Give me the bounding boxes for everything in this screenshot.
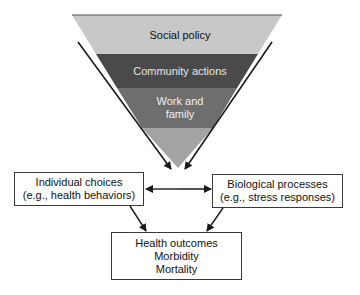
health-determinants-diagram: Social policy Community actions Work and… bbox=[0, 0, 360, 295]
individual-choices-box: Individual choices (e.g., health behavio… bbox=[14, 172, 144, 206]
individual-choices-example: (e.g., health behaviors) bbox=[23, 189, 136, 202]
health-outcomes-title: Health outcomes bbox=[135, 237, 218, 250]
health-outcomes-box: Health outcomes Morbidity Mortality bbox=[111, 232, 242, 280]
label-work-and: Work and bbox=[0, 95, 360, 108]
biological-processes-box: Biological processes (e.g., stress respo… bbox=[212, 174, 343, 208]
label-social-policy: Social policy bbox=[0, 29, 360, 42]
layer-bottom-tip bbox=[142, 128, 213, 168]
morbidity-label: Morbidity bbox=[154, 250, 199, 263]
biological-to-outcomes-arrow bbox=[207, 208, 223, 231]
label-family: family bbox=[0, 108, 360, 121]
individual-to-outcomes-arrow bbox=[130, 206, 146, 231]
mortality-label: Mortality bbox=[156, 263, 198, 276]
biological-processes-example: (e.g., stress responses) bbox=[220, 191, 335, 204]
label-community-actions: Community actions bbox=[0, 65, 360, 78]
biological-processes-title: Biological processes bbox=[227, 178, 327, 191]
individual-choices-title: Individual choices bbox=[36, 176, 123, 189]
